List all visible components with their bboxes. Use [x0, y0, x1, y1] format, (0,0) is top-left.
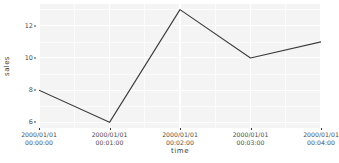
x-axis-tick-label: 2000/01/0100:00:00 — [21, 131, 57, 146]
x-axis-tick-label-time: 00:00:00 — [21, 139, 57, 147]
x-axis-tick-mark — [180, 128, 181, 130]
plot-panel — [39, 4, 321, 128]
y-axis-tick-labels: 681012 — [14, 0, 36, 132]
x-axis-tick-label-date: 2000/01/01 — [162, 131, 198, 138]
x-axis-tick-mark — [251, 128, 252, 130]
y-axis-title-label: sales — [3, 56, 11, 76]
x-axis-tick-mark — [110, 128, 111, 130]
y-axis-tick-mark — [34, 90, 36, 91]
x-axis-tick-label: 2000/01/0100:04:00 — [303, 131, 339, 146]
y-axis-tick-mark — [34, 57, 36, 58]
x-axis-tick-label-time: 00:04:00 — [303, 139, 339, 147]
y-axis-tick-label: 6 — [29, 118, 33, 126]
y-axis-title: sales — [0, 0, 14, 132]
y-axis-tick-label: 8 — [29, 86, 33, 94]
x-axis-tick-label-date: 2000/01/01 — [303, 131, 339, 138]
x-axis-title: time — [39, 147, 321, 155]
series-line-sales — [39, 4, 321, 128]
x-axis-tick-label-date: 2000/01/01 — [92, 131, 128, 138]
y-axis-tick-mark — [34, 25, 36, 26]
x-axis-tick-label-time: 00:01:00 — [92, 139, 128, 147]
x-axis-tick-mark — [321, 128, 322, 130]
y-axis-tick-label: 12 — [25, 22, 33, 30]
y-axis-tick-label: 10 — [25, 54, 33, 62]
x-axis-tick-label: 2000/01/0100:01:00 — [92, 131, 128, 146]
x-axis-tick-label: 2000/01/0100:02:00 — [162, 131, 198, 146]
x-axis-tick-label-time: 00:02:00 — [162, 139, 198, 147]
y-axis-tick-mark — [34, 122, 36, 123]
x-axis-tick-mark — [39, 128, 40, 130]
x-axis-tick-label-date: 2000/01/01 — [233, 131, 269, 138]
x-axis-tick-label-date: 2000/01/01 — [21, 131, 57, 138]
x-axis-tick-label-time: 00:03:00 — [233, 139, 269, 147]
x-axis-tick-label: 2000/01/0100:03:00 — [233, 131, 269, 146]
